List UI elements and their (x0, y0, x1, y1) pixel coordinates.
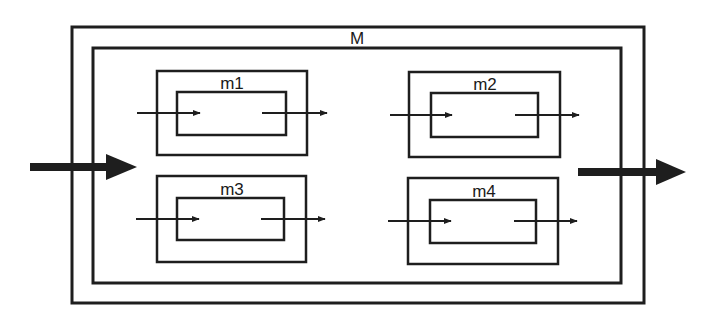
module-input-arrow-icon (30, 154, 137, 180)
submodule-label: m1 (220, 74, 244, 93)
module-diagram: M m1 m2 m3 m4 (0, 0, 711, 324)
submodule-label: m4 (472, 182, 496, 201)
module-output-arrow-icon (578, 159, 686, 185)
submodule-m4: m4 (388, 178, 577, 264)
submodule-m1: m1 (137, 71, 327, 155)
submodule-label: m3 (220, 180, 244, 199)
module-label-M: M (350, 29, 364, 48)
submodule-label: m2 (473, 75, 497, 94)
submodule-m3: m3 (136, 176, 325, 262)
submodule-m2: m2 (390, 72, 579, 157)
inner-frame (93, 48, 621, 283)
